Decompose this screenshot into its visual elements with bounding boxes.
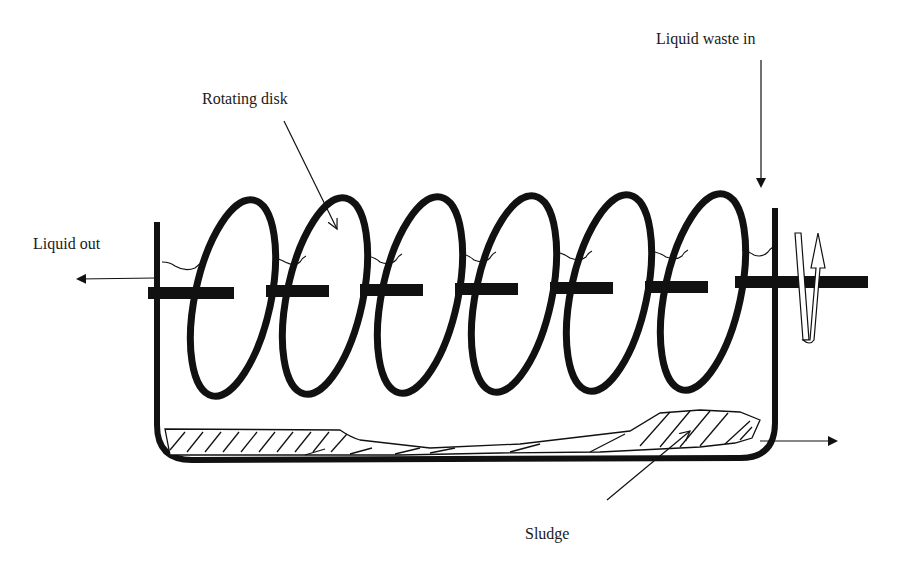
sludge-layer	[165, 410, 760, 455]
water-surface	[162, 247, 773, 270]
rbc-diagram	[0, 0, 898, 571]
rotating-disk-label: Rotating disk	[202, 91, 288, 107]
liquid-out-label: Liquid out	[33, 236, 100, 252]
shaft	[148, 276, 868, 299]
rotating-disk-arrow	[284, 121, 337, 229]
liquid-waste-in-label: Liquid waste in	[656, 31, 756, 47]
liquid-out-arrow	[78, 278, 156, 279]
sludge-label: Sludge	[525, 526, 569, 542]
